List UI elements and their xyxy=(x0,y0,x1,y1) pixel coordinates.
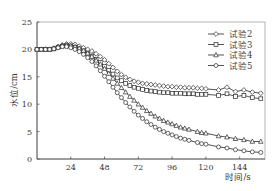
circle-marker xyxy=(162,130,166,134)
circle-marker xyxy=(204,142,208,146)
circle-marker xyxy=(166,131,170,135)
square-marker xyxy=(187,92,191,96)
circle-marker xyxy=(86,56,90,60)
diamond-marker xyxy=(161,84,166,89)
square-marker xyxy=(128,84,132,88)
circle-marker xyxy=(187,138,191,142)
square-marker xyxy=(183,92,187,96)
triangle-marker xyxy=(149,111,154,115)
circle-marker xyxy=(170,133,174,137)
circle-marker xyxy=(35,47,39,51)
circle-marker xyxy=(200,142,204,146)
square-marker xyxy=(174,91,178,95)
diamond-marker xyxy=(144,82,149,87)
x-tick-label: 24 xyxy=(66,163,76,172)
square-marker xyxy=(179,91,183,95)
square-marker xyxy=(204,92,208,96)
square-marker xyxy=(242,94,246,98)
diamond-marker xyxy=(203,86,208,91)
circle-marker xyxy=(149,122,153,126)
circle-marker xyxy=(90,59,94,63)
square-marker xyxy=(124,81,128,85)
circle-marker xyxy=(111,85,115,89)
triangle-marker xyxy=(140,105,145,109)
triangle-marker xyxy=(144,108,149,112)
diamond-marker xyxy=(170,84,175,89)
square-marker xyxy=(225,92,229,96)
x-tick-label: 72 xyxy=(133,163,143,172)
diamond-marker xyxy=(149,82,154,87)
legend-item: 试验3 xyxy=(208,40,252,50)
legend-label: 试验4 xyxy=(229,50,252,60)
diamond-marker xyxy=(250,90,255,95)
circle-marker xyxy=(60,45,64,49)
legend: 试验2试验3试验4试验5 xyxy=(208,29,252,71)
legend-label: 试验3 xyxy=(229,40,252,50)
square-marker xyxy=(191,92,195,96)
circle-marker xyxy=(98,69,102,73)
circle-marker xyxy=(153,125,157,129)
circle-marker xyxy=(56,46,60,50)
circle-marker xyxy=(77,50,81,54)
y-tick-label: 20 xyxy=(22,45,32,54)
legend-label: 试验2 xyxy=(229,29,252,39)
square-marker xyxy=(153,90,157,94)
x-axis-label: 时间/s xyxy=(225,172,250,182)
square-marker xyxy=(145,89,149,93)
x-tick-label: 48 xyxy=(99,163,109,172)
circle-marker xyxy=(141,116,145,120)
square-marker xyxy=(136,86,140,90)
diamond-marker xyxy=(178,85,183,90)
circle-marker xyxy=(94,64,98,68)
diamond-marker xyxy=(157,83,162,88)
water-level-chart: 0510152025 24487296120144 水位/cm 时间/s 试验2… xyxy=(0,0,279,191)
square-marker xyxy=(166,91,170,95)
square-marker xyxy=(196,92,200,96)
circle-marker xyxy=(242,149,246,153)
diamond-marker xyxy=(153,83,158,88)
circle-marker xyxy=(250,150,254,154)
square-marker xyxy=(149,89,153,93)
y-tick-label: 15 xyxy=(22,73,32,82)
circle-marker xyxy=(136,113,140,117)
circle-marker xyxy=(115,91,119,95)
circle-marker xyxy=(103,74,107,78)
square-marker xyxy=(217,94,221,98)
square-marker xyxy=(250,96,254,100)
circle-marker xyxy=(174,135,178,139)
square-marker xyxy=(170,91,174,95)
circle-marker xyxy=(225,146,229,150)
diamond-marker xyxy=(225,85,230,90)
square-marker xyxy=(259,97,263,101)
diamond-marker xyxy=(123,75,128,80)
square-icon xyxy=(214,43,218,47)
square-marker xyxy=(200,92,204,96)
circle-marker xyxy=(157,127,161,131)
diamond-marker xyxy=(140,81,145,86)
square-marker xyxy=(120,79,124,83)
square-marker xyxy=(234,95,238,99)
circle-marker xyxy=(65,45,69,49)
circle-marker xyxy=(119,96,123,100)
circle-marker xyxy=(145,120,149,124)
y-tick-label: 10 xyxy=(22,100,32,109)
legend-item: 试验5 xyxy=(208,61,252,71)
y-axis-label: 水位/cm xyxy=(9,73,19,107)
diamond-marker xyxy=(136,80,141,85)
x-tick-label: 144 xyxy=(232,163,247,172)
y-tick-label: 0 xyxy=(27,155,32,164)
y-tick-label: 5 xyxy=(27,128,32,137)
circle-marker xyxy=(128,105,132,109)
circle-marker xyxy=(195,141,199,145)
legend-label: 试验5 xyxy=(229,61,252,71)
circle-marker xyxy=(179,136,183,140)
triangle-marker xyxy=(153,114,158,118)
diamond-marker xyxy=(233,89,238,94)
diamond-marker xyxy=(258,91,263,96)
diamond-marker xyxy=(216,88,221,93)
circle-marker xyxy=(43,47,47,51)
circle-marker xyxy=(48,47,52,51)
circle-marker xyxy=(107,80,111,84)
diamond-marker xyxy=(191,85,196,90)
circle-marker xyxy=(233,148,237,152)
